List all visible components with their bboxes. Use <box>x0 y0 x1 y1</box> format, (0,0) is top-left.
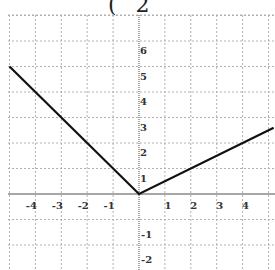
x-tick-label: 2 <box>190 200 197 211</box>
y-tick-label: 5 <box>140 71 147 82</box>
y-tick-label: 1 <box>140 173 147 184</box>
x-tick-label: -3 <box>52 200 63 211</box>
y-tick-label: 4 <box>140 96 147 107</box>
y-tick-label: -2 <box>141 254 152 265</box>
y-tick-label: 3 <box>140 122 147 133</box>
x-tick-label: 3 <box>216 200 223 211</box>
y-tick-label: 6 <box>140 45 147 56</box>
x-tick-label: -2 <box>78 200 89 211</box>
x-tick-label: 1 <box>164 200 171 211</box>
x-tick-label: 4 <box>242 200 249 211</box>
piecewise-graph: -4-3-2-11234654321-1-2 <box>0 0 275 270</box>
x-tick-label: -1 <box>104 200 115 211</box>
y-tick-label: 2 <box>140 147 147 158</box>
x-tick-label: -4 <box>26 200 37 211</box>
y-tick-label: -1 <box>141 229 152 240</box>
